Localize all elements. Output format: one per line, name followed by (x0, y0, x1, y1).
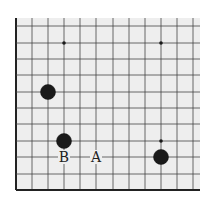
star-point-icon (62, 41, 66, 45)
black-stone (57, 134, 72, 149)
star-point-icon (159, 139, 163, 143)
black-stone (154, 150, 169, 165)
move-label-a: A (90, 149, 102, 165)
star-point-icon (159, 41, 163, 45)
board-background (16, 18, 200, 190)
move-label-b: B (59, 149, 69, 165)
go-board: BA (0, 0, 215, 204)
black-stone (41, 85, 56, 100)
